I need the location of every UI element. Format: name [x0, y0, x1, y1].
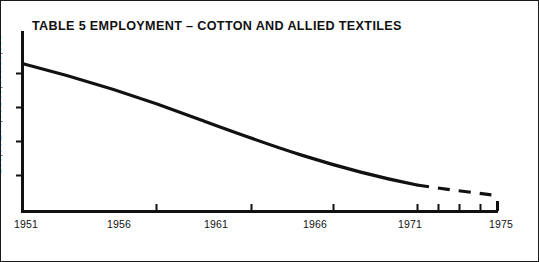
chart-svg: [1, 1, 539, 262]
y-axis-label-200000: 200,000: [0, 102, 3, 140]
y-axis-label-400000: 400,000: [0, 34, 3, 72]
x-axis-label-1961: 1961: [204, 218, 228, 230]
employment-line-projected: [417, 185, 493, 195]
x-axis-label-1956: 1956: [107, 218, 131, 230]
plot-area: [1, 1, 539, 262]
y-axis-label-100000: 100,000: [0, 136, 3, 174]
x-axis-label-1971: 1971: [398, 218, 422, 230]
employment-line-actual: [24, 64, 417, 185]
x-axis-label-1975: 1975: [489, 218, 513, 230]
chart-figure: TABLE 5 EMPLOYMENT – COTTON AND ALLIED T…: [0, 0, 539, 262]
y-axis-label-300000: 300,000: [0, 68, 3, 106]
x-axis-label-1951: 1951: [14, 218, 38, 230]
x-axis-label-1966: 1966: [303, 218, 327, 230]
x-axis-ticks: [157, 201, 498, 211]
